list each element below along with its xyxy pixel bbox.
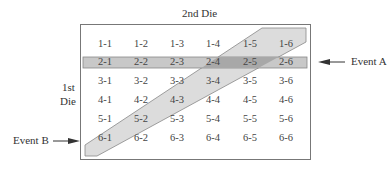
event-a-arrow-icon — [318, 59, 345, 65]
outcome-cell: 5-1 — [90, 113, 120, 124]
outcome-cell: 5-6 — [271, 113, 301, 124]
event-a-text: Event A — [351, 55, 387, 67]
outcome-cell: 6-1 — [90, 132, 120, 143]
event-b-label: Event B — [13, 134, 49, 146]
diagram-canvas — [0, 0, 389, 171]
outcome-cell: 1-6 — [271, 38, 301, 49]
outcome-cell: 4-3 — [162, 94, 192, 105]
event-b-text: Event B — [13, 134, 49, 146]
outcome-cell: 6-4 — [198, 132, 228, 143]
outcome-cell: 6-6 — [271, 132, 301, 143]
outcome-cell: 5-5 — [235, 113, 265, 124]
event-b-arrow-icon — [53, 138, 80, 144]
outcome-cell: 3-2 — [126, 75, 156, 86]
outcome-cell: 2-6 — [271, 56, 301, 67]
outcome-cell: 2-5 — [235, 56, 265, 67]
outcome-cell: 5-3 — [162, 113, 192, 124]
outcome-cell: 4-5 — [235, 94, 265, 105]
outcome-cell: 2-1 — [90, 56, 120, 67]
outcome-cell: 6-2 — [126, 132, 156, 143]
outcome-cell: 6-3 — [162, 132, 192, 143]
outcome-cell: 2-4 — [198, 56, 228, 67]
outcome-cell: 5-4 — [198, 113, 228, 124]
outcome-cell: 2-3 — [162, 56, 192, 67]
outcome-cell: 4-2 — [126, 94, 156, 105]
outcome-cell: 3-6 — [271, 75, 301, 86]
outcome-cell: 3-1 — [90, 75, 120, 86]
outcome-cell: 5-2 — [126, 113, 156, 124]
outcome-cell: 6-5 — [235, 132, 265, 143]
row-axis-label-1st: 1st — [62, 81, 75, 93]
outcome-cell: 1-3 — [162, 38, 192, 49]
outcome-cell: 3-4 — [198, 75, 228, 86]
outcome-cell: 1-1 — [90, 38, 120, 49]
row-axis-label-die: Die — [60, 95, 76, 107]
column-axis-title: 2nd Die — [182, 7, 217, 19]
outcome-cell: 4-6 — [271, 94, 301, 105]
outcome-cell: 1-4 — [198, 38, 228, 49]
outcome-cell: 3-5 — [235, 75, 265, 86]
outcome-cell: 4-1 — [90, 94, 120, 105]
outcome-cell: 1-2 — [126, 38, 156, 49]
outcome-cell: 4-4 — [198, 94, 228, 105]
outcome-cell: 3-3 — [162, 75, 192, 86]
outcome-cell: 1-5 — [235, 38, 265, 49]
event-a-label: Event A — [351, 55, 387, 67]
outcome-cell: 2-2 — [126, 56, 156, 67]
